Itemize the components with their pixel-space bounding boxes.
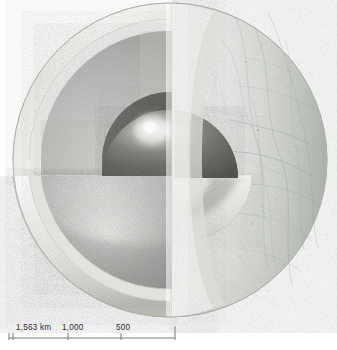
scale-label-500: 500 [116,323,131,332]
scale-label-1000: 1,000 [62,323,84,332]
core-highlight-hot-front [143,121,157,133]
figure-canvas: 1,563 km 1,000 500 [0,0,337,350]
scale-label-1563: 1,563 km [16,323,51,332]
europa-cutaway-illustration: 1,563 km 1,000 500 [0,0,337,350]
